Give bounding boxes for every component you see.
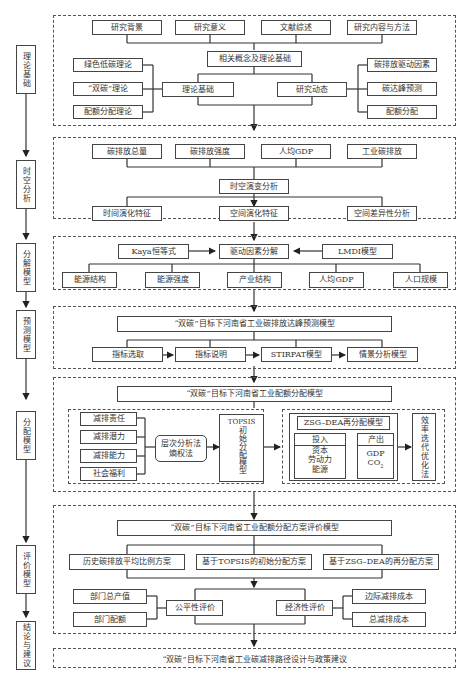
evaluation-title: “双碳”目标下河南省工业配额分配方案评价模型	[117, 520, 392, 536]
st-spatial-features: 空间演化特征	[219, 206, 289, 221]
eval-total-cost: 总减排成本	[352, 612, 426, 627]
entropy-label: 熵权法	[169, 449, 193, 458]
topsis-initial-model: TOPSIS 初始分配模型	[219, 414, 264, 482]
theory-content-methods: 研究内容与方法	[347, 20, 417, 35]
eval-marginal-cost: 边际减排成本	[352, 589, 426, 604]
eval-sector-quota: 部门配额	[73, 612, 147, 627]
output-co2: CO2	[368, 458, 384, 469]
ahp-entropy-method: 层次分析法 熵权法	[155, 435, 207, 462]
factor-population: 人口规模	[393, 272, 448, 288]
driver-decomposition: 驱动因素分解	[219, 244, 289, 259]
stage-conclusion: 结论与建议	[16, 621, 36, 670]
research-dynamics: 研究动态	[277, 82, 347, 97]
stage-theory: 理论基础	[16, 45, 36, 94]
st-total-emissions: 碳排放总量	[92, 144, 162, 159]
st-industrial-emissions: 工业碳排放	[347, 144, 417, 159]
pred-scenario-model: 情景分析模型	[347, 347, 418, 362]
stage-evaluation: 评价模型	[16, 545, 36, 594]
ahp-label: 层次分析法	[161, 439, 201, 448]
input-label: 投入	[295, 434, 345, 446]
theory-dual-carbon: “双碳”理论	[73, 82, 143, 96]
criterion-capacity: 减排能力	[80, 449, 137, 463]
criterion-welfare: 社会福利	[80, 467, 137, 481]
conclusion-text: “双碳”目标下河南省工业碳减排路径设计与政策建议	[162, 653, 346, 664]
output-label: 产出	[358, 434, 393, 446]
st-spatial-differences: 空间差异性分析	[347, 206, 417, 221]
allocation-title: “双碳”目标下河南省工业配额分配模型	[117, 386, 392, 402]
zsg-output: 产出 GDP CO2	[357, 433, 394, 479]
prediction-title: “双碳”目标下河南省工业碳排放达峰预测模型	[117, 316, 392, 332]
topsis-vertical-label: 初始分配模型	[237, 426, 246, 474]
zsg-dea-model: ZSG–DEA再分配模型	[297, 416, 390, 430]
stage-prediction: 预测模型	[16, 310, 36, 359]
eval-sector-output: 部门总产值	[73, 589, 147, 604]
scheme-topsis: 基于TOPSIS的初始分配方案	[196, 554, 312, 570]
st-gdp-per-capita: 人均GDP	[261, 144, 331, 159]
lmdi-model: LMDI模型	[322, 244, 393, 259]
pred-stirpat-model: STIRPAT模型	[261, 347, 332, 362]
dyn-carbon-drivers: 碳排放驱动因素	[367, 58, 437, 72]
stage-decomposition: 分解模型	[16, 243, 36, 292]
stage-allocation: 分配模型	[16, 411, 36, 460]
fairness-evaluation: 公平性评价	[166, 600, 223, 616]
theory-concepts: 相关概念及理论基础	[207, 51, 302, 67]
st-evolution-analysis: 时空演变分析	[219, 179, 289, 194]
theory-quota-allocation: 配额分配理论	[73, 105, 143, 119]
efficiency-iteration: 效率迭代优化法	[412, 413, 436, 481]
theory-background: 研究背景	[92, 20, 162, 35]
factor-energy-intensity: 能源强度	[145, 272, 200, 288]
st-temporal-features: 时间演化特征	[92, 206, 162, 221]
factor-gdp-per-capita: 人均GDP	[309, 272, 364, 288]
kaya-identity: Kaya恒等式	[118, 244, 189, 259]
dyn-peak-forecast: 碳达峰预测	[367, 82, 437, 96]
input-labor: 劳动力	[308, 455, 332, 464]
factor-industry-structure: 产业结构	[227, 272, 282, 288]
theory-basis: 理论基础	[162, 82, 234, 97]
criterion-potential: 减排潜力	[80, 430, 137, 444]
theory-significance: 研究意义	[175, 20, 245, 35]
theory-green-lowcarbon: 绿色低碳理论	[73, 58, 143, 72]
input-capital: 资本	[312, 446, 328, 455]
stage-spatiotemporal: 时空分析	[16, 160, 36, 209]
dyn-quota-allocation: 配额分配	[367, 105, 437, 119]
topsis-label: TOPSIS	[228, 418, 255, 426]
scheme-historical: 历史碳排放平均比例方案	[69, 554, 185, 570]
pred-indicator-selection: 指标选取	[92, 347, 163, 362]
pred-indicator-description: 指标说明	[175, 347, 246, 362]
factor-energy-structure: 能源结构	[62, 272, 117, 288]
zsg-input: 投入 资本 劳动力 能源	[294, 433, 346, 479]
st-emission-intensity: 碳排放强度	[175, 144, 245, 159]
theory-literature: 文献综述	[261, 20, 331, 35]
criterion-responsibility: 减排责任	[80, 412, 137, 426]
scheme-zsg-dea: 基于ZSG–DEA的再分配方案	[323, 554, 439, 570]
input-energy: 能源	[312, 465, 328, 474]
output-gdp: GDP	[366, 449, 384, 458]
section-conclusion: “双碳”目标下河南省工业碳减排路径设计与政策建议	[53, 648, 456, 668]
economic-evaluation: 经济性评价	[276, 600, 333, 616]
